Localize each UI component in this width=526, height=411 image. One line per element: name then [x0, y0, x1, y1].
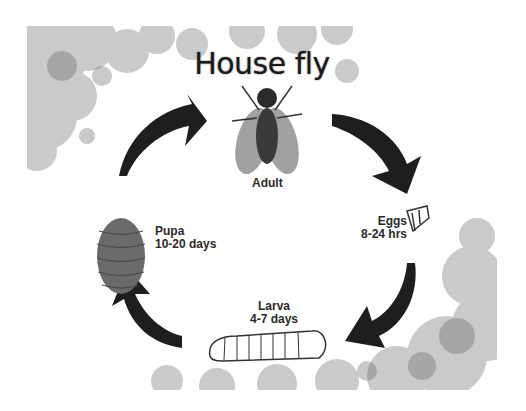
cycle-arrow-icon [345, 263, 416, 348]
stage-label-adult: Adult [252, 177, 283, 190]
eggs-icon [407, 206, 429, 231]
larva-icon [210, 331, 326, 361]
pupa-icon [97, 218, 145, 294]
slide: House fly [27, 26, 497, 390]
stage-label-eggs: Eggs 8-24 hrs [337, 215, 407, 241]
stage-label-larva: Larva 4-7 days [239, 300, 309, 326]
fly-adult-icon [229, 86, 306, 178]
cycle-arrow-icon [119, 94, 207, 176]
stage-label-pupa: Pupa 10-20 days [155, 225, 216, 251]
life-cycle-art [27, 26, 497, 390]
cycle-arrow-icon [332, 114, 421, 194]
